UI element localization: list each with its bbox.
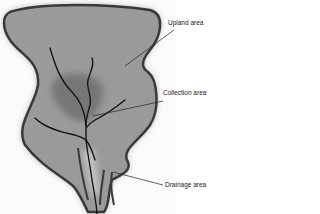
drainage-area-label: Drainage area <box>165 181 206 188</box>
upland-area-label: Upland area <box>168 19 203 26</box>
drainage-leader-line <box>113 172 163 185</box>
collection-area-label: Collection area <box>163 89 206 96</box>
